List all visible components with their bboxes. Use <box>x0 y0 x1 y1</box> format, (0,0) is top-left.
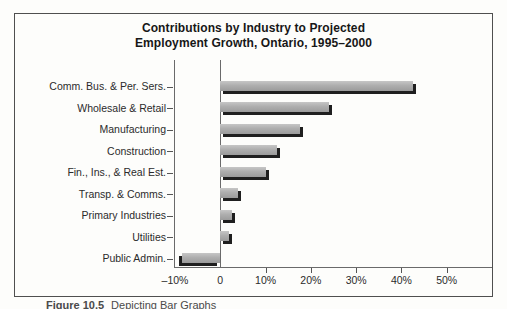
category-label: Fin., Ins., & Real Est. <box>15 166 166 179</box>
figure-caption-text: Depicting Bar Graphs <box>111 299 216 309</box>
x-axis-tick-label: 10% <box>255 274 276 286</box>
category-axis-tick <box>167 130 173 131</box>
chart-title-line-2: Employment Growth, Ontario, 1995–2000 <box>15 36 492 51</box>
category-label: Primary Industries <box>15 209 166 222</box>
x-axis-tick <box>356 268 357 273</box>
bar <box>220 81 412 91</box>
x-axis-tick <box>266 268 267 273</box>
category-label: Wholesale & Retail <box>15 102 166 115</box>
category-axis-tick <box>167 108 173 109</box>
category-axis-tick <box>167 216 173 217</box>
x-axis-tick-label: 50% <box>436 274 457 286</box>
x-axis-tick-label: 30% <box>346 274 367 286</box>
category-label: Construction <box>15 145 166 158</box>
bar <box>220 145 277 155</box>
bar <box>220 124 299 134</box>
x-axis-tick-label: 20% <box>300 274 321 286</box>
category-axis-tick <box>167 173 173 174</box>
chart-figure: Contributions by Industry to Projected E… <box>14 13 493 297</box>
category-axis-tick <box>167 151 173 152</box>
x-axis-tick <box>447 268 448 273</box>
category-label: Manufacturing <box>15 123 166 136</box>
chart-title: Contributions by Industry to Projected E… <box>15 21 492 51</box>
x-axis-tick <box>311 268 312 273</box>
category-label: Public Admin. <box>15 252 166 265</box>
bar <box>220 188 238 198</box>
bar <box>220 210 231 220</box>
category-axis-tick <box>167 87 173 88</box>
bar <box>220 167 265 177</box>
x-axis-tick-label: 0 <box>217 274 223 286</box>
category-axis-tick <box>167 194 173 195</box>
chart-title-line-1: Contributions by Industry to Projected <box>15 21 492 36</box>
plot-area: –10%010%20%30%40%50% <box>174 60 492 268</box>
category-axis-tick <box>167 237 173 238</box>
category-label: Comm. Bus. & Per. Sers. <box>15 80 166 93</box>
category-label: Transp. & Comms. <box>15 188 166 201</box>
x-axis-tick-label: –10% <box>162 274 189 286</box>
x-axis-tick <box>401 268 402 273</box>
x-axis-tick-label: 40% <box>391 274 412 286</box>
category-label: Utilities <box>15 231 166 244</box>
category-axis-tick <box>167 259 173 260</box>
figure-caption: Figure 10.5Depicting Bar Graphs <box>46 299 216 309</box>
figure-caption-number: Figure 10.5 <box>46 299 104 309</box>
bar <box>220 102 329 112</box>
bar <box>220 231 229 241</box>
bar <box>182 253 220 263</box>
